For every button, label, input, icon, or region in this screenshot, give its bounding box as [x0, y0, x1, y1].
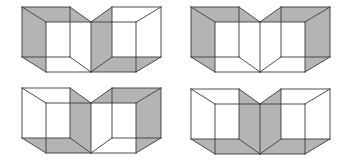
figure-4-bottom-right	[191, 89, 330, 154]
figure-1-top-left	[22, 7, 161, 72]
cube-pairs-diagram	[0, 0, 349, 167]
figure-2-top-right	[191, 7, 330, 72]
figure-3-bottom-left	[22, 88, 161, 153]
